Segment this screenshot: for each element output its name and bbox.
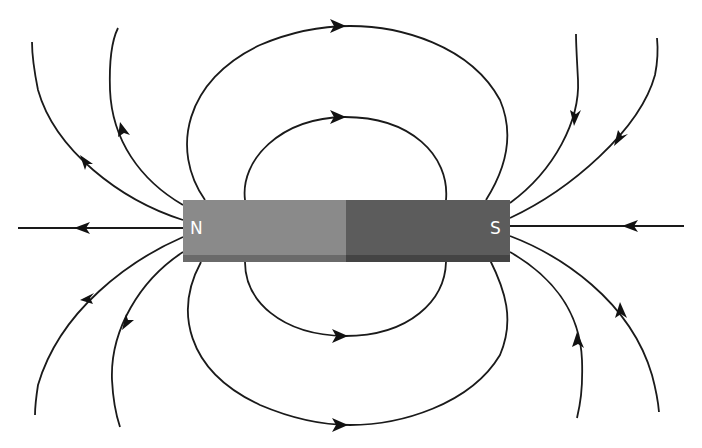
field-line-left-fan-1 <box>32 42 183 220</box>
field-line-left-fan-4 <box>112 252 183 427</box>
top-loops <box>187 19 507 200</box>
field-line-right-fan-4 <box>510 252 582 418</box>
arrow-icon <box>572 332 584 348</box>
arrow-icon <box>118 122 130 137</box>
magnet-north-half <box>183 200 346 255</box>
field-line-left-fan-3 <box>35 237 183 415</box>
arrow-icon <box>614 130 628 146</box>
field-diagram-svg: N S <box>0 0 702 448</box>
field-line-outer-loop-bottom <box>188 260 507 425</box>
field-line-outer-loop-top <box>187 26 507 200</box>
field-line-inner-loop-top <box>245 117 447 200</box>
bar-magnet-field-diagram: N S <box>0 0 702 448</box>
field-line-right-fan-2 <box>510 38 658 218</box>
field-line-right-fan-1 <box>510 34 578 203</box>
magnet-north-edge <box>183 255 346 262</box>
bottom-loops <box>188 260 507 432</box>
field-line-inner-loop-bottom <box>245 262 446 336</box>
bar-magnet: N S <box>183 200 510 262</box>
north-pole-label: N <box>190 218 203 238</box>
field-line-right-fan-3 <box>510 236 659 412</box>
magnet-south-edge <box>346 255 510 262</box>
magnet-south-half <box>346 200 510 255</box>
field-line-left-fan-2 <box>110 28 183 205</box>
south-pole-label: S <box>490 218 501 238</box>
